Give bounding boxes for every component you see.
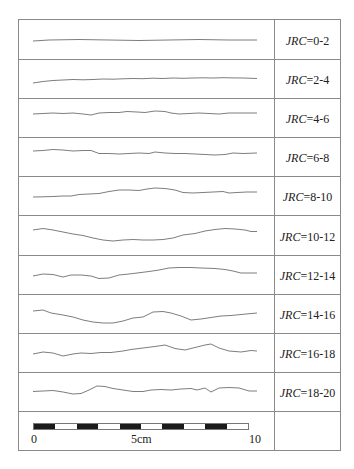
jrc-label-prefix: JRC <box>280 386 301 401</box>
jrc-label-range: =0-2 <box>306 34 329 49</box>
jrc-label-prefix: JRC <box>283 190 304 205</box>
jrc-label-range: =12-14 <box>300 269 335 284</box>
jrc-label-range: =6-8 <box>306 151 329 166</box>
scale-segment-white <box>98 424 119 429</box>
jrc-label-prefix: JRC <box>280 230 301 245</box>
profile-row: JRC=8-10 <box>19 177 340 216</box>
jrc-label: JRC=10-12 <box>275 216 340 255</box>
jrc-label: JRC=4-6 <box>275 99 340 137</box>
profile-row: JRC=14-16 <box>19 295 340 334</box>
scale-cell: 0 5cm 10 <box>19 412 275 451</box>
profile-cell <box>19 20 275 59</box>
jrc-label-prefix: JRC <box>286 112 307 127</box>
profile-cell <box>19 99 275 137</box>
jrc-label: JRC=8-10 <box>275 177 340 215</box>
roughness-profile-line <box>19 334 274 373</box>
jrc-label-prefix: JRC <box>280 347 301 362</box>
scale-segment-black <box>34 424 55 429</box>
profile-row: JRC=10-12 <box>19 216 340 256</box>
jrc-label: JRC=0-2 <box>275 20 340 59</box>
scale-row: 0 5cm 10 <box>19 412 340 451</box>
scale-segment-white <box>184 424 205 429</box>
jrc-label-range: =14-16 <box>300 308 335 323</box>
jrc-label: JRC=2-4 <box>275 60 340 98</box>
profile-row: JRC=16-18 <box>19 334 340 373</box>
roughness-profile-line <box>19 177 274 216</box>
profile-cell <box>19 334 275 372</box>
jrc-label-range: =10-12 <box>300 230 335 245</box>
jrc-label: JRC=12-14 <box>275 256 340 294</box>
profile-cell <box>19 256 275 294</box>
profile-cell <box>19 216 275 255</box>
roughness-profile-line <box>19 138 274 177</box>
roughness-profile-line <box>19 20 274 60</box>
jrc-label-range: =4-6 <box>306 112 329 127</box>
jrc-profile-figure: JRC=0-2JRC=2-4JRC=4-6JRC=6-8JRC=8-10JRC=… <box>18 19 341 451</box>
scale-segment-black <box>205 424 226 429</box>
profile-cell <box>19 60 275 98</box>
profile-row: JRC=4-6 <box>19 99 340 138</box>
roughness-profile-line <box>19 373 274 412</box>
profile-row: JRC=18-20 <box>19 373 340 412</box>
jrc-label-prefix: JRC <box>280 308 301 323</box>
scale-label-start: 0 <box>31 432 37 447</box>
roughness-profile-line <box>19 295 274 334</box>
scale-label-end: 10 <box>249 432 261 447</box>
scale-bar <box>33 423 249 430</box>
roughness-profile-line <box>19 99 274 138</box>
scale-segment-black <box>77 424 98 429</box>
jrc-label: JRC=6-8 <box>275 138 340 176</box>
jrc-label-range: =18-20 <box>300 386 335 401</box>
profile-cell <box>19 177 275 215</box>
profile-row: JRC=0-2 <box>19 20 340 60</box>
scale-segment-white <box>55 424 76 429</box>
jrc-label: JRC=16-18 <box>275 334 340 372</box>
jrc-label-prefix: JRC <box>286 34 307 49</box>
jrc-label: JRC=18-20 <box>275 373 340 411</box>
jrc-label-range: =2-4 <box>306 73 329 88</box>
profile-cell <box>19 138 275 176</box>
roughness-profile-line <box>19 216 274 256</box>
jrc-label-range: =16-18 <box>300 347 335 362</box>
profile-row: JRC=12-14 <box>19 256 340 295</box>
jrc-label-prefix: JRC <box>286 73 307 88</box>
empty-label-cell <box>275 412 340 451</box>
roughness-profile-line <box>19 256 274 295</box>
roughness-profile-line <box>19 60 274 99</box>
scale-segment-white <box>227 424 248 429</box>
profile-cell <box>19 373 275 411</box>
profile-cell <box>19 295 275 333</box>
profile-row: JRC=2-4 <box>19 60 340 99</box>
scale-segment-black <box>162 424 183 429</box>
scale-label-mid: 5cm <box>131 432 152 447</box>
scale-segment-black <box>120 424 141 429</box>
profile-row: JRC=6-8 <box>19 138 340 177</box>
jrc-label-range: =8-10 <box>303 190 332 205</box>
jrc-label-prefix: JRC <box>286 151 307 166</box>
scale-segment-white <box>141 424 162 429</box>
jrc-label: JRC=14-16 <box>275 295 340 333</box>
jrc-label-prefix: JRC <box>280 269 301 284</box>
